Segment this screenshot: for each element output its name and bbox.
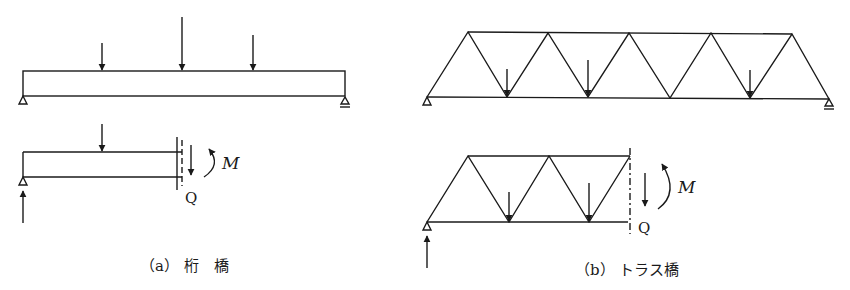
moment-label: M (677, 177, 696, 197)
girder-bridge-full (19, 17, 350, 107)
roller-support-icon (341, 97, 349, 104)
pin-support-icon (423, 222, 431, 230)
moment-label: M (221, 153, 240, 173)
roller-support-icon (825, 99, 833, 106)
moment-arrow (204, 149, 214, 177)
pin-support-icon (423, 97, 431, 105)
truss-bridge-full (423, 32, 834, 109)
moment-arrow (658, 164, 670, 209)
caption-truss-bridge: （b） トラス橋 (575, 258, 679, 279)
shear-label: Q (638, 219, 650, 237)
pin-support-icon (19, 177, 27, 185)
pin-support-icon (19, 96, 27, 104)
truss-diagonals (427, 32, 829, 99)
shear-label: Q (185, 189, 197, 207)
girder-beam (23, 71, 345, 96)
caption-girder-bridge: （a） 桁 橋 (140, 254, 229, 275)
bottom-chord (427, 97, 829, 99)
girder-free-body (19, 124, 214, 223)
truss-free-body (423, 148, 670, 268)
bridge-diagram: M Q M Q (0, 0, 850, 290)
